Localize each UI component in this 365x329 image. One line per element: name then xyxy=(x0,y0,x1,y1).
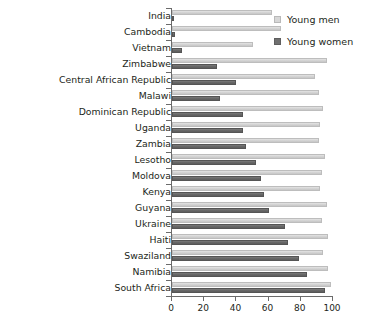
bar-row: Malawi xyxy=(0,88,365,104)
bar-row: Moldova xyxy=(0,168,365,184)
category-label: Dominican Republic xyxy=(79,107,171,117)
y-axis-tick xyxy=(166,24,171,25)
x-axis-tick xyxy=(332,296,333,301)
bar-row: Guyana xyxy=(0,200,365,216)
y-axis-tick xyxy=(166,168,171,169)
bar-young-women xyxy=(172,144,246,149)
bar-young-women xyxy=(172,272,307,277)
bar-group xyxy=(172,280,365,296)
bar-young-men xyxy=(172,42,253,47)
category-label: Central African Republic xyxy=(59,75,171,85)
y-axis-tick xyxy=(166,8,171,9)
bar-row: Swaziland xyxy=(0,248,365,264)
bar-young-men xyxy=(172,282,331,287)
bar-young-women xyxy=(172,96,220,101)
bar-young-women xyxy=(172,64,217,69)
category-label: Guyana xyxy=(135,203,171,213)
x-axis-tick-label: 40 xyxy=(230,303,241,313)
bar-young-men xyxy=(172,170,322,175)
bar-row: Zimbabwe xyxy=(0,56,365,72)
bar-row: Dominican Republic xyxy=(0,104,365,120)
y-axis-tick xyxy=(166,88,171,89)
bar-young-men xyxy=(172,138,319,143)
bar-group xyxy=(172,232,365,248)
category-label: Vietnam xyxy=(132,43,171,53)
bar-young-men xyxy=(172,250,323,255)
y-axis-tick xyxy=(166,232,171,233)
bar-row: Namibia xyxy=(0,264,365,280)
category-label: Malawi xyxy=(139,91,171,101)
x-axis-tick-label: 0 xyxy=(168,303,174,313)
bar-young-men xyxy=(172,234,328,239)
y-axis-tick xyxy=(166,136,171,137)
bar-group xyxy=(172,248,365,264)
y-axis-line xyxy=(171,8,172,296)
bar-group xyxy=(172,8,365,24)
bar-group xyxy=(172,24,365,40)
bar-chart: Young men Young women IndiaCambodiaVietn… xyxy=(0,0,365,329)
bar-group xyxy=(172,104,365,120)
bar-young-men xyxy=(172,74,315,79)
bar-group xyxy=(172,184,365,200)
y-axis-tick xyxy=(166,184,171,185)
category-label: Moldova xyxy=(132,171,171,181)
bar-row: India xyxy=(0,8,365,24)
y-axis-tick xyxy=(166,280,171,281)
bar-young-men xyxy=(172,218,322,223)
category-label: Lesotho xyxy=(135,155,172,165)
plot-area: IndiaCambodiaVietnamZimbabweCentral Afri… xyxy=(0,8,365,296)
x-axis-tick xyxy=(235,296,236,301)
category-label: Haiti xyxy=(150,235,172,245)
bar-row: Ukraine xyxy=(0,216,365,232)
bar-group xyxy=(172,168,365,184)
x-axis-tick xyxy=(203,296,204,301)
category-label: Uganda xyxy=(135,123,171,133)
y-axis-tick xyxy=(166,216,171,217)
bar-young-men xyxy=(172,10,272,15)
category-label: Cambodia xyxy=(124,27,171,37)
bar-group xyxy=(172,264,365,280)
bar-young-women xyxy=(172,240,288,245)
category-label: Ukraine xyxy=(135,219,171,229)
y-axis-tick xyxy=(166,248,171,249)
bar-group xyxy=(172,152,365,168)
bar-row: Haiti xyxy=(0,232,365,248)
bar-row: Kenya xyxy=(0,184,365,200)
bar-group xyxy=(172,56,365,72)
bar-group xyxy=(172,120,365,136)
x-axis-tick xyxy=(300,296,301,301)
x-axis-tick-label: 20 xyxy=(197,303,208,313)
category-label: Zambia xyxy=(136,139,171,149)
bar-row: Vietnam xyxy=(0,40,365,56)
y-axis-tick xyxy=(166,152,171,153)
category-label: Kenya xyxy=(143,187,171,197)
y-axis-tick xyxy=(166,200,171,201)
category-label: India xyxy=(148,11,171,21)
bar-group xyxy=(172,72,365,88)
x-axis-line xyxy=(171,296,333,297)
bar-young-women xyxy=(172,112,243,117)
bar-young-women xyxy=(172,128,243,133)
category-label: South Africa xyxy=(115,283,172,293)
bar-row: Zambia xyxy=(0,136,365,152)
bar-group xyxy=(172,216,365,232)
bar-row: Lesotho xyxy=(0,152,365,168)
category-label: Namibia xyxy=(133,267,171,277)
bar-row: South Africa xyxy=(0,280,365,296)
bar-row: Uganda xyxy=(0,120,365,136)
y-axis-tick xyxy=(166,120,171,121)
x-axis-tick xyxy=(171,296,172,301)
bar-young-men xyxy=(172,202,327,207)
bar-group xyxy=(172,40,365,56)
bar-row: Cambodia xyxy=(0,24,365,40)
y-axis-tick xyxy=(166,56,171,57)
x-axis-tick xyxy=(268,296,269,301)
bar-young-men xyxy=(172,58,327,63)
bar-young-women xyxy=(172,160,256,165)
bar-young-men xyxy=(172,26,281,31)
bar-group xyxy=(172,88,365,104)
bar-young-women xyxy=(172,288,325,293)
x-axis-tick-label: 60 xyxy=(262,303,273,313)
bar-group xyxy=(172,136,365,152)
y-axis-tick xyxy=(166,72,171,73)
